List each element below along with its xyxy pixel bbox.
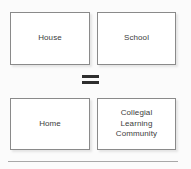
concept-box-home-label: Home <box>36 119 64 130</box>
equals-bar-top <box>82 75 99 78</box>
concept-box-house-label: House <box>35 33 65 44</box>
concept-box-collegial-learning-community: Collegial Learning Community <box>97 98 176 150</box>
equals-sign-icon: = <box>81 71 99 87</box>
diagram-canvas: House School = Home Collegial Learning C… <box>0 0 191 169</box>
concept-box-home: Home <box>10 98 90 150</box>
equals-sign-text: = <box>90 79 91 80</box>
concept-box-school-label: School <box>121 33 152 44</box>
horizontal-rule-divider <box>8 161 178 162</box>
equals-bar-bottom <box>82 81 99 84</box>
concept-box-school: School <box>97 12 176 65</box>
concept-box-house: House <box>10 12 90 65</box>
concept-box-collegial-learning-community-label: Collegial Learning Community <box>113 108 160 140</box>
